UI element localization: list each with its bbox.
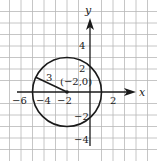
x-tick-neg4: −4 (36, 95, 51, 106)
coordinate-plane-figure: x y −6 −4 −2 2 4 2 −2 −4 3 (−2,0) (0, 0, 157, 161)
x-axis-label: x (139, 86, 146, 99)
x-tick-2: 2 (110, 95, 116, 106)
y-tick-4: 4 (79, 40, 85, 51)
y-axis-label: y (84, 4, 92, 17)
graph-canvas: x y −6 −4 −2 2 4 2 −2 −4 3 (−2,0) (0, 0, 157, 161)
y-tick-2: 2 (79, 63, 85, 74)
y-tick-neg2: −2 (74, 111, 89, 122)
center-label: (−2,0) (60, 76, 92, 87)
x-tick-neg6: −6 (12, 95, 27, 106)
center-point (65, 90, 69, 94)
y-tick-neg4: −4 (74, 134, 89, 145)
radius-label: 3 (46, 72, 52, 83)
x-axis (17, 88, 136, 96)
x-tick-neg2: −2 (57, 95, 72, 106)
